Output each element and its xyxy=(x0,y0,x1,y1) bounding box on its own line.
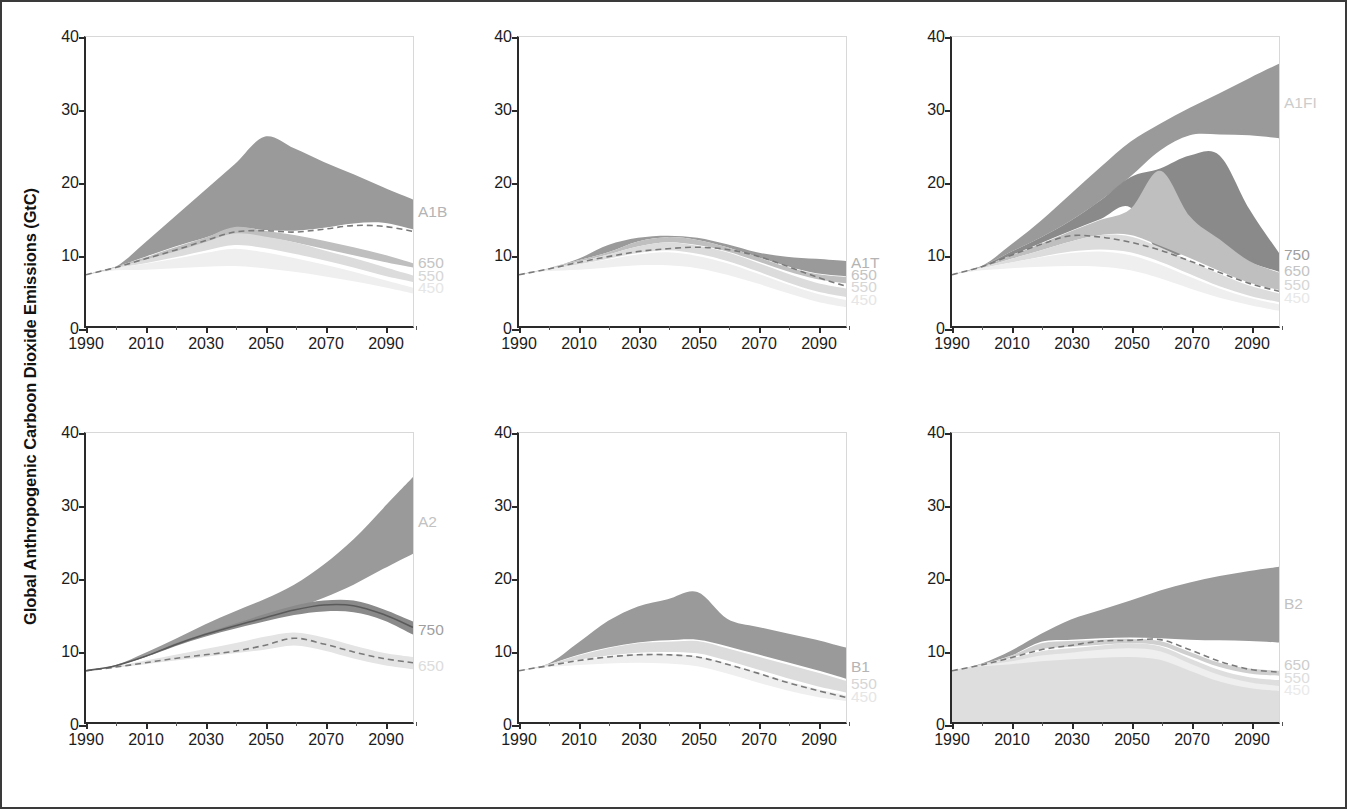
y-tick-label: 30 xyxy=(494,101,519,119)
x-tick-mark xyxy=(952,326,954,333)
x-tick-label: 2050 xyxy=(248,731,284,749)
x-tick-mark xyxy=(519,722,521,729)
x-tick-mark-minor xyxy=(609,722,610,726)
x-tick-mark-minor xyxy=(789,326,790,330)
edge-label-f-450: 450 xyxy=(1284,681,1310,699)
x-tick-mark-minor xyxy=(849,326,850,330)
x-tick-label: 2070 xyxy=(308,731,344,749)
y-tick-label: 10 xyxy=(61,643,86,661)
y-tick-label: 40 xyxy=(927,424,952,442)
edge-label-c-450: 450 xyxy=(1284,289,1310,307)
edge-label-a-450: 450 xyxy=(418,279,444,297)
panel-c: TS-2c IPCC SRES A1FI Scenarios0102030401… xyxy=(912,6,1345,402)
y-tick-label: 40 xyxy=(494,424,519,442)
x-tick-mark xyxy=(699,326,701,333)
x-tick-label: 2070 xyxy=(308,335,344,353)
x-tick-mark-minor xyxy=(416,326,417,330)
y-axis-title-text: Global Anthropogenic Carboon Dioxide Emi… xyxy=(21,188,40,625)
series-canvas-a xyxy=(86,37,413,326)
x-tick-mark xyxy=(206,722,208,729)
y-tick-label: 30 xyxy=(61,497,86,515)
x-tick-label: 2030 xyxy=(188,335,224,353)
edge-label-e-B1: B1 xyxy=(851,658,870,676)
y-axis-title: Global Anthropogenic Carboon Dioxide Emi… xyxy=(10,2,50,809)
x-tick-mark-minor xyxy=(982,326,983,330)
x-tick-mark-minor xyxy=(849,722,850,726)
x-tick-mark xyxy=(1192,326,1194,333)
x-tick-mark-minor xyxy=(1222,722,1223,726)
x-tick-mark xyxy=(1012,326,1014,333)
x-tick-label: 2010 xyxy=(128,731,164,749)
x-tick-mark-minor xyxy=(116,326,117,330)
x-tick-label: 2090 xyxy=(1234,731,1270,749)
x-tick-mark-minor xyxy=(236,326,237,330)
x-tick-label: 2090 xyxy=(368,731,404,749)
x-tick-mark-minor xyxy=(982,722,983,726)
x-tick-label: 2050 xyxy=(681,731,717,749)
x-tick-label: 2090 xyxy=(368,335,404,353)
x-tick-mark xyxy=(1132,722,1134,729)
x-tick-label: 2070 xyxy=(1174,335,1210,353)
x-tick-mark xyxy=(146,326,148,333)
x-tick-mark xyxy=(819,722,821,729)
x-tick-mark-minor xyxy=(1282,722,1283,726)
x-tick-mark xyxy=(579,326,581,333)
x-tick-label: 2010 xyxy=(128,335,164,353)
edge-label-d-750: 750 xyxy=(418,621,444,639)
x-tick-mark xyxy=(519,326,521,333)
y-tick-label: 20 xyxy=(494,174,519,192)
x-tick-mark-minor xyxy=(1162,722,1163,726)
panel-f: TS-2f IPCC SRES B2 Scenarios010203040199… xyxy=(912,402,1345,798)
x-tick-mark-minor xyxy=(1162,326,1163,330)
x-tick-mark xyxy=(1012,722,1014,729)
x-tick-mark-minor xyxy=(416,722,417,726)
x-tick-mark-minor xyxy=(669,722,670,726)
x-tick-label: 1990 xyxy=(934,335,970,353)
x-tick-mark-minor xyxy=(549,722,550,726)
plot-area-f: 010203040199020102030205020702090B265055… xyxy=(950,432,1280,724)
x-tick-mark-minor xyxy=(609,326,610,330)
x-tick-label: 2010 xyxy=(561,335,597,353)
x-tick-mark xyxy=(699,722,701,729)
x-tick-label: 2050 xyxy=(1114,731,1150,749)
y-tick-label: 10 xyxy=(927,247,952,265)
x-tick-mark xyxy=(146,722,148,729)
y-tick-label: 20 xyxy=(494,570,519,588)
series-canvas-e xyxy=(519,433,846,722)
y-tick-label: 30 xyxy=(927,497,952,515)
edge-label-d-650: 650 xyxy=(418,657,444,675)
y-tick-label: 10 xyxy=(927,643,952,661)
panel-e: TS-2e IPCC SRES B1 Scenarios010203040199… xyxy=(479,402,912,798)
x-tick-label: 2050 xyxy=(248,335,284,353)
x-tick-mark xyxy=(386,722,388,729)
x-tick-mark-minor xyxy=(1102,326,1103,330)
x-tick-label: 2070 xyxy=(1174,731,1210,749)
series-canvas-d xyxy=(86,433,413,722)
series-canvas-b xyxy=(519,37,846,326)
y-tick-label: 20 xyxy=(61,174,86,192)
plot-area-a: 010203040199020102030205020702090A1B6505… xyxy=(84,36,414,328)
x-tick-mark xyxy=(759,722,761,729)
y-tick-label: 10 xyxy=(61,247,86,265)
x-tick-label: 1990 xyxy=(68,335,104,353)
x-tick-mark-minor xyxy=(1042,722,1043,726)
x-tick-mark-minor xyxy=(729,722,730,726)
x-tick-mark xyxy=(639,722,641,729)
y-tick-label: 40 xyxy=(61,424,86,442)
panel-grid: TS-2a IPCC SRES A1B Scenarios01020304019… xyxy=(46,6,1345,807)
x-tick-label: 2030 xyxy=(621,731,657,749)
x-tick-label: 2090 xyxy=(801,731,837,749)
x-tick-mark xyxy=(266,326,268,333)
x-tick-mark-minor xyxy=(296,326,297,330)
x-tick-label: 2010 xyxy=(561,731,597,749)
panel-a: TS-2a IPCC SRES A1B Scenarios01020304019… xyxy=(46,6,479,402)
x-tick-mark xyxy=(86,722,88,729)
x-tick-label: 2090 xyxy=(801,335,837,353)
y-tick-label: 10 xyxy=(494,643,519,661)
x-tick-mark-minor xyxy=(116,722,117,726)
x-tick-mark xyxy=(386,326,388,333)
x-tick-mark xyxy=(326,722,328,729)
x-tick-mark xyxy=(86,326,88,333)
y-tick-label: 30 xyxy=(61,101,86,119)
x-tick-label: 1990 xyxy=(934,731,970,749)
